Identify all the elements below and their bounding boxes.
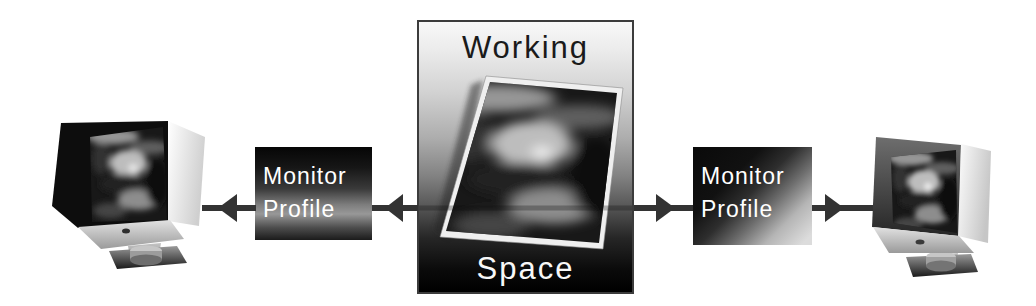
connector-right-inner-line xyxy=(634,205,693,211)
monitor-profile-right-line1: Monitor xyxy=(701,160,812,193)
right-monitor-neck xyxy=(927,253,958,270)
monitor-profile-box-right: Monitor Profile xyxy=(693,147,812,245)
right-monitor-swivel-side xyxy=(926,257,956,266)
right-monitor-illustration xyxy=(872,137,991,277)
left-monitor-power-button xyxy=(122,229,130,234)
right-monitor-screen xyxy=(881,140,967,245)
right-monitor-swivel-bottom xyxy=(926,261,956,272)
working-space-label-bottom: Space xyxy=(418,251,633,287)
connector-right-inner xyxy=(634,194,693,222)
left-monitor-swivel-top xyxy=(130,246,162,257)
arrow-right-icon xyxy=(656,194,675,222)
left-monitor-neck xyxy=(128,243,161,263)
right-monitor-swivel-top xyxy=(926,252,956,263)
left-monitor-screen xyxy=(78,115,178,233)
monitor-profile-left-line2: Profile xyxy=(263,193,372,226)
left-monitor-swivel-bottom xyxy=(130,255,162,266)
connector-left-outer xyxy=(202,194,256,222)
right-monitor-power-button xyxy=(916,240,925,245)
arrow-left-icon xyxy=(385,194,403,222)
left-monitor-side-panel xyxy=(168,121,205,226)
left-monitor-chin xyxy=(78,220,184,249)
left-monitor-swivel-side xyxy=(130,251,162,260)
connector-right-outer xyxy=(812,194,873,222)
left-monitor-illustration xyxy=(52,115,205,269)
monitor-profile-box-left: Monitor Profile xyxy=(255,147,372,240)
left-monitor-base-plate xyxy=(109,246,187,269)
left-monitor-bezel xyxy=(52,121,168,228)
connector-right-outer-line xyxy=(812,205,873,211)
arrow-left-icon xyxy=(218,194,237,222)
color-management-diagram: Working Space Monitor Profile Monitor Pr… xyxy=(0,0,1036,306)
right-monitor-bezel xyxy=(872,137,961,236)
connector-left-inner xyxy=(372,194,418,222)
monitor-profile-right-line2: Profile xyxy=(701,193,812,226)
monitor-profile-left-line1: Monitor xyxy=(263,160,372,193)
connector-left-inner-line xyxy=(372,205,418,211)
right-monitor-base-plate xyxy=(906,254,978,277)
connector-left-outer-line xyxy=(202,205,256,211)
arrow-right-icon xyxy=(825,194,844,222)
right-monitor-side-panel xyxy=(958,144,991,243)
working-space-label-top: Working xyxy=(418,30,633,66)
right-monitor-chin xyxy=(873,227,974,253)
